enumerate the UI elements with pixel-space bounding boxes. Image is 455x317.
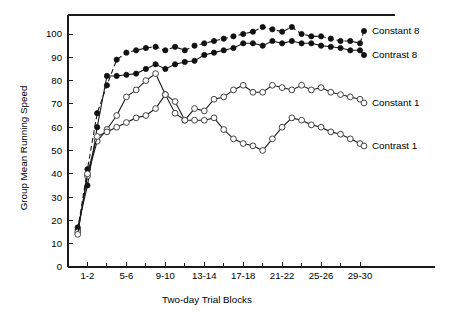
data-point — [338, 38, 343, 43]
data-point — [361, 100, 367, 106]
data-point — [211, 38, 216, 43]
data-point — [143, 45, 148, 50]
data-point — [299, 117, 305, 123]
data-point — [270, 136, 276, 142]
data-series — [75, 24, 367, 237]
data-point — [211, 96, 217, 102]
data-point — [338, 92, 344, 98]
data-point — [231, 45, 236, 50]
data-point — [241, 41, 246, 46]
data-point — [347, 94, 353, 100]
data-point — [328, 44, 333, 49]
data-point — [114, 73, 119, 78]
data-point — [153, 106, 159, 112]
data-point — [221, 94, 227, 100]
data-point — [279, 85, 285, 91]
data-point — [270, 38, 275, 43]
series-line — [78, 95, 364, 235]
data-point — [289, 24, 294, 29]
legend-label-constant-8: Constant 8 — [372, 25, 420, 36]
y-tick-label: 0 — [57, 261, 62, 272]
data-point — [201, 108, 207, 114]
data-point — [202, 41, 207, 46]
y-tick-label: 90 — [51, 52, 62, 63]
data-point — [299, 82, 305, 88]
data-point — [328, 36, 333, 41]
data-point — [308, 122, 314, 128]
data-point — [270, 27, 275, 32]
data-point — [241, 31, 246, 36]
data-point — [143, 113, 149, 119]
data-point — [192, 43, 197, 48]
data-point — [172, 110, 178, 116]
data-point — [361, 28, 366, 33]
data-point — [361, 52, 366, 57]
data-point — [309, 34, 314, 39]
data-point — [318, 124, 324, 130]
data-point — [114, 113, 120, 119]
data-point — [231, 87, 237, 93]
data-point — [260, 148, 266, 154]
data-point — [221, 48, 226, 53]
data-point — [172, 99, 178, 105]
data-point — [250, 41, 255, 46]
x-tick-label: 25-26 — [309, 270, 334, 281]
y-axis-title: Group Mean Running Speed — [18, 86, 29, 211]
data-point — [192, 117, 198, 123]
data-point — [124, 50, 129, 55]
data-point — [347, 136, 353, 142]
axis-tick-labels: 01020304050607080901001-25-69-1013-1417-… — [46, 28, 372, 281]
y-tick-label: 100 — [46, 28, 62, 39]
legend-label-contrast-1: Contrast 1 — [372, 140, 417, 151]
data-point — [250, 143, 256, 149]
data-point — [163, 48, 168, 53]
data-point — [124, 94, 130, 100]
data-point — [231, 34, 236, 39]
data-point — [95, 125, 100, 130]
y-tick-label: 30 — [51, 192, 62, 203]
data-point — [338, 131, 344, 137]
data-point — [114, 124, 120, 130]
data-point — [192, 58, 197, 63]
legend-label-constant-1: Constant 1 — [372, 97, 419, 108]
legend-label-contrast-8: Contrast 8 — [372, 49, 418, 60]
data-point — [202, 52, 207, 57]
data-point — [357, 41, 362, 46]
data-point — [361, 143, 367, 149]
data-point — [94, 134, 100, 140]
y-tick-label: 40 — [51, 168, 62, 179]
data-point — [279, 124, 285, 130]
data-point — [143, 78, 149, 84]
data-point — [104, 73, 109, 78]
y-tick-label: 50 — [51, 145, 62, 156]
data-point — [260, 43, 265, 48]
chart-figure: 01020304050607080901001-25-69-1013-1417-… — [0, 0, 455, 317]
data-point — [318, 85, 324, 91]
data-point — [299, 31, 304, 36]
data-point — [260, 24, 265, 29]
data-point — [231, 136, 237, 142]
data-point — [153, 44, 158, 49]
data-point — [309, 41, 314, 46]
data-point — [124, 72, 129, 77]
data-point — [153, 62, 158, 67]
data-point — [134, 71, 139, 76]
data-point — [211, 115, 217, 121]
data-point — [270, 82, 276, 88]
data-point — [240, 141, 246, 147]
x-tick-label: 17-18 — [231, 270, 256, 281]
data-point — [299, 41, 304, 46]
axis-ticks — [68, 34, 360, 267]
data-point — [192, 106, 198, 112]
y-tick-label: 10 — [51, 238, 62, 249]
data-point — [182, 48, 187, 53]
y-tick-label: 60 — [51, 122, 62, 133]
data-point — [357, 48, 362, 53]
x-tick-label: 13-14 — [192, 270, 217, 281]
data-point — [280, 29, 285, 34]
data-point — [182, 59, 187, 64]
data-point — [153, 71, 159, 77]
data-point — [289, 115, 295, 121]
data-point — [104, 129, 110, 135]
data-point — [338, 45, 343, 50]
